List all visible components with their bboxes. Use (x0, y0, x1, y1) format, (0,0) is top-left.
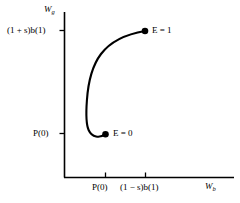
trajectory-curve (86, 31, 145, 137)
marker-e1 (142, 28, 149, 35)
y-axis-label-symbol: W (44, 4, 52, 14)
y-axis-label: Wg (44, 5, 55, 15)
annotation-e1: E = 1 (152, 26, 172, 35)
y-tick-label-bottom: P(0) (33, 129, 49, 138)
axes-group (64, 12, 234, 178)
x-tick-label-right: (1 − s)b(1) (120, 183, 159, 192)
curve-group (86, 31, 145, 137)
x-axis-label-symbol: W (205, 181, 213, 191)
data-point-markers (102, 28, 148, 138)
marker-e0 (102, 131, 109, 138)
y-axis-label-subscript: g (52, 8, 55, 15)
y-tick-label-top: (1 + s)b(1) (7, 26, 46, 35)
x-axis-label: Wb (205, 182, 216, 192)
x-axis-label-subscript: b (213, 185, 216, 192)
figure-container: Wg Wb (1 + s)b(1) P(0) P(0) (1 − s)b(1) … (0, 0, 240, 203)
annotation-e0: E = 0 (113, 129, 133, 138)
x-tick-label-left: P(0) (92, 183, 108, 192)
